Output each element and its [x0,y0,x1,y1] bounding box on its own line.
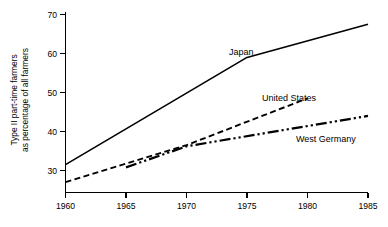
y-tick-label-30: 30 [47,166,57,176]
x-tick-label-1960: 1960 [56,201,75,211]
y-tick-label-40: 40 [47,127,57,137]
x-tick-label-1975: 1975 [237,201,256,211]
x-axis-tick-labels: 1960 1965 1970 1975 1980 1985 [56,201,378,211]
x-tick-label-1985: 1985 [358,201,377,211]
y-axis-tick-labels: 70 60 50 40 30 [47,10,57,176]
line-chart: Type II part-time farmers as percentage … [0,0,388,227]
y-axis-title-line1: Type II part-time farmers [9,54,19,145]
series-label-united-states: United States [262,93,317,103]
y-tick-label-60: 60 [47,49,57,59]
y-tick-label-70: 70 [47,10,57,20]
y-axis-ticks [60,15,66,171]
axes [66,12,369,193]
x-axis-ticks [66,193,369,199]
series-label-japan: Japan [229,47,254,57]
x-tick-label-1980: 1980 [298,201,317,211]
series-line-united-states [66,98,308,182]
y-tick-label-50: 50 [47,88,57,98]
data-series-layer [66,24,369,182]
y-axis-title-line2: as percentage of all farmers [20,48,30,152]
x-tick-label-1965: 1965 [116,201,135,211]
chart-container: Type II part-time farmers as percentage … [0,0,388,227]
x-tick-label-1970: 1970 [177,201,196,211]
series-label-west-germany: West Germany [296,134,356,144]
y-axis-title: Type II part-time farmers as percentage … [9,48,30,152]
